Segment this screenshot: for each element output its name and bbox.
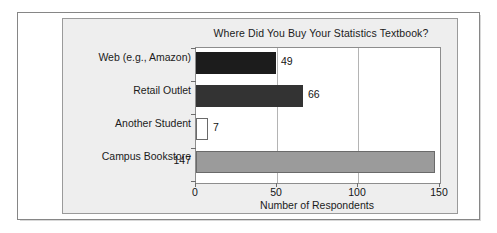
chart-panel: Where Did You Buy Your Statistics Textbo… [62,18,458,214]
bar-value-retail-outlet: 66 [308,88,320,100]
x-axis-tick-label-100: 100 [337,186,377,198]
bar-value-campus-bookstore: 147 [173,154,191,166]
y-axis-tick [191,81,196,82]
y-axis-tick [191,181,196,182]
plot-area: 49 66 7 147 [195,47,441,184]
y-axis-label-web: Web (e.g., Amazon) [67,51,191,63]
bar-value-another-student: 7 [213,121,219,133]
y-axis-label-another-student: Another Student [67,117,191,129]
x-axis-tick-label-0: 0 [175,186,215,198]
bar-value-web: 49 [281,55,293,67]
x-axis-tick-label-50: 50 [256,186,296,198]
y-axis-tick [191,48,196,49]
chart-title: Where Did You Buy Your Statistics Textbo… [181,27,461,39]
y-axis-labels: Web (e.g., Amazon) Retail Outlet Another… [65,47,191,182]
x-axis-tick-label-150: 150 [419,186,459,198]
y-axis-label-campus-bookstore: Campus Bookstore [67,150,191,162]
y-axis-tick [191,114,196,115]
x-axis-title: Number of Respondents [195,199,439,211]
bar-another-student[interactable] [196,118,208,140]
bar-retail-outlet[interactable] [196,85,303,107]
figure-frame: Where Did You Buy Your Statistics Textbo… [17,12,480,220]
x-axis-tick-labels: 0 50 100 150 [165,186,471,200]
y-axis-label-retail-outlet: Retail Outlet [67,84,191,96]
bar-web[interactable] [196,52,276,74]
bar-campus-bookstore[interactable] [196,151,435,173]
y-axis-tick [191,148,196,149]
